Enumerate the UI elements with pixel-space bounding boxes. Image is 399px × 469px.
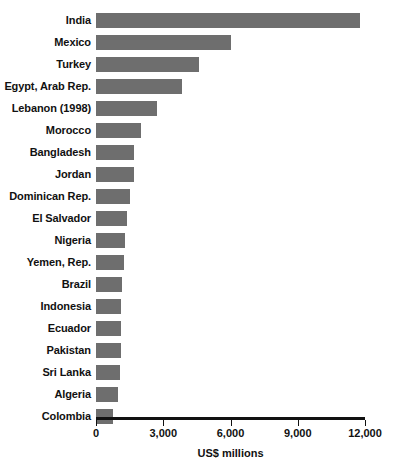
bar-row: Morocco [0,120,399,142]
bar-category-label: Ecuador [0,318,91,340]
x-axis-tick-label: 0 [61,427,131,439]
bar [96,387,118,402]
bar-row: Mexico [0,32,399,54]
bar [96,189,130,204]
bar-category-label: Colombia [0,406,91,428]
bar [96,35,231,50]
bar-category-label: Egypt, Arab Rep. [0,76,91,98]
x-axis-tick [96,420,97,426]
bar-row: El Salvador [0,208,399,230]
bar-category-label: Mexico [0,32,91,54]
bar-category-label: Nigeria [0,230,91,252]
bar-category-label: Morocco [0,120,91,142]
bar [96,365,120,380]
bar-row: Ecuador [0,318,399,340]
x-axis-tick [298,420,299,426]
bar [96,343,121,358]
x-axis-title: US$ millions [96,447,365,459]
bar [96,211,127,226]
bar-row: Yemen, Rep. [0,252,399,274]
horizontal-bar-chart: IndiaMexicoTurkeyEgypt, Arab Rep.Lebanon… [0,0,399,469]
bar-category-label: Lebanon (1998) [0,98,91,120]
bar-category-label: Brazil [0,274,91,296]
bar-category-label: Bangladesh [0,142,91,164]
x-axis-tick-label: 3,000 [128,427,198,439]
bar [96,101,157,116]
bar-category-label: Turkey [0,54,91,76]
bar-category-label: Indonesia [0,296,91,318]
bar-category-label: El Salvador [0,208,91,230]
bar [96,123,141,138]
bar-row: Sri Lanka [0,362,399,384]
bar [96,233,125,248]
bar [96,79,182,94]
bar-row: Lebanon (1998) [0,98,399,120]
bar-row: Algeria [0,384,399,406]
x-axis-tick-label: 6,000 [196,427,266,439]
bar [96,57,199,72]
x-axis-tick-label: 12,000 [330,427,399,439]
bar-row: Bangladesh [0,142,399,164]
bar-row: Dominican Rep. [0,186,399,208]
bar [96,321,121,336]
bar-row: Turkey [0,54,399,76]
x-axis-tick [231,420,232,426]
bar-category-label: Jordan [0,164,91,186]
x-axis-tick [163,420,164,426]
bar-category-label: Pakistan [0,340,91,362]
x-axis-tick-label: 9,000 [263,427,333,439]
bar [96,145,134,160]
bar-row: India [0,10,399,32]
bar [96,255,124,270]
bar [96,13,360,28]
bar [96,167,134,182]
bar [96,299,121,314]
bar-category-label: Yemen, Rep. [0,252,91,274]
x-axis-tick [365,420,366,426]
bar-category-label: Dominican Rep. [0,186,91,208]
bar-category-label: Sri Lanka [0,362,91,384]
bar-row: Brazil [0,274,399,296]
bar-row: Jordan [0,164,399,186]
bar-row: Egypt, Arab Rep. [0,76,399,98]
bar-row: Indonesia [0,296,399,318]
bar-row: Pakistan [0,340,399,362]
bar-category-label: Algeria [0,384,91,406]
bar [96,277,122,292]
bar-row: Nigeria [0,230,399,252]
bar-category-label: India [0,10,91,32]
